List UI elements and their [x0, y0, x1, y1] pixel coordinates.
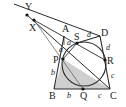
label-q: Q — [80, 90, 88, 101]
label-c: C — [110, 90, 117, 101]
label-s: S — [74, 31, 80, 42]
label-r: R — [107, 55, 114, 66]
label-y: Y — [25, 1, 32, 12]
label-a: A — [62, 23, 70, 34]
diagram-canvas: Y X A S D P R B Q C a a d d b b c c — [0, 0, 126, 107]
point-y — [25, 13, 28, 16]
len-label-b-bq: b — [67, 91, 71, 100]
geometry-diagram: Y X A S D P R B Q C a a d d b b c c — [0, 0, 126, 107]
len-label-c-rc: c — [111, 71, 115, 80]
label-x: X — [29, 22, 37, 33]
len-label-c-qc: c — [98, 91, 102, 100]
len-label-a-as: a — [67, 38, 71, 47]
label-b: B — [49, 90, 56, 101]
len-label-a-ap: a — [59, 45, 63, 54]
label-d: D — [101, 27, 108, 38]
point-p — [61, 57, 64, 60]
len-label-d-dr: d — [106, 43, 111, 52]
len-label-d-sd: d — [87, 30, 92, 39]
len-label-b-pb: b — [51, 68, 55, 77]
label-p: P — [53, 54, 59, 65]
